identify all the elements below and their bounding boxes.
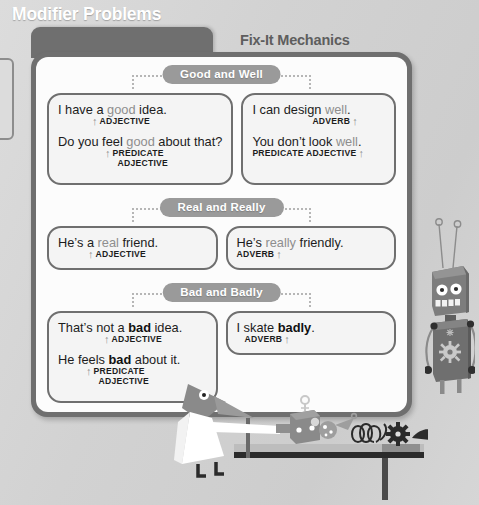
page-title: Modifier Problems (12, 4, 161, 25)
gear (386, 422, 410, 446)
robot-mascot (425, 216, 475, 396)
annotation-label-2: ADJECTIVE (118, 159, 168, 169)
example-row: He’s a real friend. ↑ ADJECTIVE He’s rea… (36, 226, 407, 270)
example-box-left: I have a good idea. ↑ ADJECTIVE Do you f… (47, 93, 233, 185)
light-bulb (319, 414, 356, 439)
annotation: PREDICATE ADJECTIVE ↑ (252, 149, 385, 160)
example-row: I have a good idea. ↑ ADJECTIVE Do you f… (36, 93, 407, 185)
example-sentence: I can design well. (252, 102, 385, 117)
box-with-key (290, 396, 320, 444)
annotation-label: ADVERB (237, 250, 275, 260)
annotation: ↑ PREDICATE ADJECTIVE (105, 149, 222, 169)
panel-inner-card: Good and Well I have a good idea. ↑ ADJE… (36, 57, 407, 412)
example-box-right: He’s really friendly. ADVERB ↑ (226, 226, 397, 270)
table-leg (382, 458, 388, 500)
example-sentence: He’s really friendly. (237, 235, 386, 250)
annotation-label: ADVERB (312, 117, 350, 127)
dark-blade (412, 429, 428, 440)
annotation-label: ADJECTIVE (112, 335, 162, 345)
up-arrow-icon: ↑ (105, 148, 111, 159)
section-bad-and-badly: Bad and Badly That’s not a bad idea. ↑ A… (36, 283, 407, 305)
annotation: ADVERB ↑ (237, 250, 386, 261)
example-sentence: He feels bad about it. (58, 352, 207, 367)
example-box-right: I skate badly. ADVERB ↑ (226, 311, 397, 355)
example-box-left: He’s a real friend. ↑ ADJECTIVE (47, 226, 218, 270)
annotation-label: PREDICATE ADJECTIVE (252, 149, 356, 159)
section-good-and-well: Good and Well I have a good idea. ↑ ADJE… (36, 65, 407, 87)
subject-label: Fix-It Mechanics (240, 32, 350, 48)
annotation: ADVERB ↑ (312, 117, 385, 128)
example-box-right: I can design well. ADVERB ↑ You don’t lo… (241, 93, 396, 185)
illustration-scene (168, 378, 428, 505)
example-sentence: I have a good idea. (58, 102, 222, 117)
table-edge (234, 452, 424, 458)
annotation: ↑ ADJECTIVE (88, 250, 207, 261)
example-sentence: He’s a real friend. (58, 235, 207, 250)
up-arrow-icon: ↑ (284, 334, 290, 345)
keyword: good (126, 134, 154, 149)
up-arrow-icon: ↑ (358, 148, 364, 159)
keyword: good (107, 102, 135, 117)
up-arrow-icon: ↑ (92, 116, 98, 127)
section-header: Bad and Badly (36, 283, 407, 305)
keyword: well (325, 102, 347, 117)
up-arrow-icon: ↑ (88, 249, 94, 260)
up-arrow-icon: ↑ (276, 249, 282, 260)
annotation-label-2: ADJECTIVE (99, 377, 149, 387)
section-title-pill: Real and Really (159, 198, 283, 217)
up-arrow-icon: ↑ (352, 116, 358, 127)
annotation-label: ADVERB (245, 335, 283, 345)
annotation: ↑ ADJECTIVE (92, 117, 222, 128)
section-header: Real and Really (36, 198, 407, 220)
example-sentence: You don’t look well. (252, 134, 385, 149)
keyword: bad (128, 320, 151, 335)
example-sentence: Do you feel good about that? (58, 134, 222, 149)
section-title-pill: Good and Well (162, 65, 281, 84)
main-panel: Good and Well I have a good idea. ↑ ADJE… (31, 52, 412, 417)
up-arrow-icon: ↑ (104, 334, 110, 345)
keyword: bad (109, 352, 132, 367)
bird-hand (276, 424, 290, 433)
annotation: ↑ ADJECTIVE (104, 335, 207, 346)
example-sentence: That’s not a bad idea. (58, 320, 207, 335)
up-arrow-icon: ↑ (86, 366, 92, 377)
example-sentence: I skate badly. (237, 320, 386, 335)
keyword: well (336, 134, 358, 149)
annotation-label: ADJECTIVE (100, 117, 150, 127)
left-cutoff-box (0, 58, 14, 140)
keyword: badly (278, 320, 311, 335)
section-header: Good and Well (36, 65, 407, 87)
annotation: ADVERB ↑ (245, 335, 386, 346)
annotation-label: ADJECTIVE (96, 250, 146, 260)
section-real-and-really: Real and Really He’s a real friend. ↑ AD… (36, 198, 407, 220)
section-title-pill: Bad and Badly (162, 283, 280, 302)
coiled-wire (352, 424, 386, 442)
keyword: real (98, 235, 119, 250)
page-background: Modifier Problems Fix-It Mechanics Good … (0, 0, 479, 505)
